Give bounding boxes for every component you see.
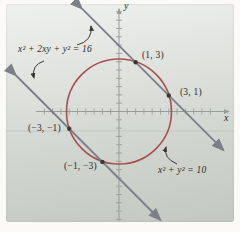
point-label-1-3: (1, 3) bbox=[142, 50, 164, 61]
circle-equation-label: x² + y² = 10 bbox=[158, 165, 206, 176]
intersection-dot-neg3-neg1 bbox=[67, 127, 71, 131]
leader-arrow-to-lower-line bbox=[33, 61, 44, 78]
intersection-dot-neg1-neg3 bbox=[100, 160, 104, 164]
y-axis-label: y bbox=[124, 0, 129, 11]
tangent-line-upper bbox=[82, 9, 224, 151]
point-label-neg1-neg3: (−1, −3) bbox=[64, 161, 97, 172]
figure-page: y x x² + 2xy + y² = 16 x² + y² = 10 (1, … bbox=[0, 0, 240, 232]
graph-svg bbox=[0, 0, 240, 232]
x-axis-label: x bbox=[224, 112, 229, 123]
intersection-dot-3-1 bbox=[167, 93, 171, 97]
point-label-neg3-neg1: (−3, −1) bbox=[28, 123, 61, 134]
leader-arrow-to-upper-line bbox=[77, 26, 91, 45]
tangent-line-lower bbox=[16, 76, 161, 221]
leader-arrow-to-circle bbox=[165, 147, 177, 164]
point-label-3-1: (3, 1) bbox=[180, 87, 202, 98]
intersection-dot-1-3 bbox=[133, 60, 137, 64]
line-equation-label: x² + 2xy + y² = 16 bbox=[18, 44, 92, 55]
